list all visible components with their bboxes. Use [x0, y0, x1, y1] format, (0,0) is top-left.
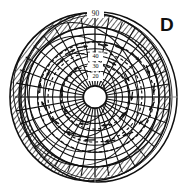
label-halo-40: 40: [88, 52, 103, 61]
pole-hole: [84, 86, 107, 108]
label-halo-30: 30: [88, 62, 103, 71]
label-halo-90: 90: [87, 9, 104, 18]
latitude-label-40: 40: [92, 52, 98, 59]
flow-arrow: [40, 83, 41, 93]
latitude-label-30: 30: [92, 62, 98, 69]
latitude-label-90: 90: [92, 9, 100, 18]
flow-arrow: [98, 45, 108, 46]
figure-panel-d: 90 40 30 20 D: [0, 0, 189, 191]
label-halo-20: 20: [88, 72, 103, 81]
panel-label-d: D: [160, 15, 174, 34]
flow-arrow: [80, 124, 89, 125]
latitude-label-20: 20: [92, 72, 98, 79]
flow-arrow: [62, 88, 63, 97]
